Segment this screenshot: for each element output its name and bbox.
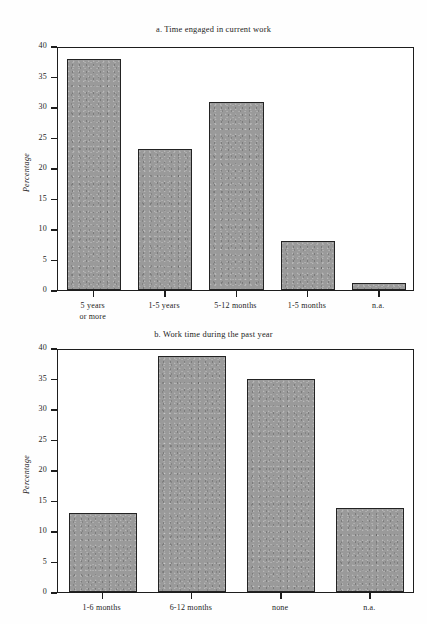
chart-b-xtick-label: 6-12 months: [146, 602, 235, 613]
chart-a-plot-area: [57, 47, 414, 291]
chart-b-ytick-label: 30: [39, 404, 47, 413]
chart-b-ytick-mark: [51, 379, 57, 381]
chart-a-xtick-mark: [93, 291, 95, 297]
chart-a-ytick-label: 30: [39, 102, 47, 111]
chart-b-ytick-label: 20: [39, 465, 47, 474]
chart-a-xtick-label: 5-12 months: [200, 300, 271, 311]
chart-b-ytick-label: 40: [39, 343, 47, 352]
chart-b-ytick-label: 35: [39, 374, 47, 383]
chart-b-ytick-label: 0: [43, 587, 47, 596]
chart-b: b. Work time during the past year Percen…: [0, 312, 427, 624]
chart-b-xtick-label: 1-6 months: [57, 602, 146, 613]
chart-a-title: a. Time engaged in current work: [0, 25, 427, 34]
chart-b-ytick-mark: [51, 440, 57, 442]
chart-b-ytick-mark: [51, 348, 57, 350]
chart-b-xtick-label: n.a.: [325, 602, 414, 613]
chart-a-bar: [138, 149, 192, 290]
chart-b-bar: [336, 508, 404, 592]
chart-b-ytick-mark: [51, 531, 57, 533]
chart-a-xtick-mark: [307, 291, 309, 297]
chart-b-ytick-mark: [51, 562, 57, 564]
chart-a-xtick-label: 1-5 years: [128, 300, 199, 311]
chart-a-ytick-mark: [51, 77, 57, 79]
chart-a-ytick-label: 35: [39, 72, 47, 81]
chart-a-ytick-mark: [51, 138, 57, 140]
chart-b-bar: [158, 356, 226, 592]
chart-a-xtick-label: n.a.: [343, 300, 414, 311]
chart-b-ytick-mark: [51, 470, 57, 472]
chart-b-y-axis-label: Percentage: [22, 445, 31, 505]
chart-a-ytick-label: 20: [39, 163, 47, 172]
chart-a-xtick-label: 1-5 months: [271, 300, 342, 311]
chart-b-xtick-mark: [102, 593, 104, 599]
chart-b-xtick-label: none: [236, 602, 325, 613]
chart-b-ytick-mark: [51, 592, 57, 594]
chart-a-ytick-mark: [51, 260, 57, 262]
chart-a-ytick-mark: [51, 199, 57, 201]
chart-a: a. Time engaged in current work Percenta…: [0, 0, 427, 312]
chart-b-ytick-mark: [51, 409, 57, 411]
chart-a-bar: [281, 241, 335, 290]
chart-b-bar: [247, 379, 315, 593]
chart-a-bar: [352, 283, 406, 290]
chart-b-xtick-mark: [280, 593, 282, 599]
chart-a-ytick-label: 5: [43, 255, 47, 264]
chart-b-ytick-label: 5: [43, 557, 47, 566]
chart-b-title: b. Work time during the past year: [0, 330, 427, 339]
chart-a-ytick-mark: [51, 46, 57, 48]
chart-a-ytick-label: 25: [39, 133, 47, 142]
chart-a-ytick-label: 0: [43, 285, 47, 294]
chart-a-ytick-label: 15: [39, 194, 47, 203]
chart-b-bars: [58, 350, 413, 592]
chart-a-ytick-mark: [51, 290, 57, 292]
chart-a-ytick-mark: [51, 229, 57, 231]
chart-b-ytick-label: 25: [39, 435, 47, 444]
chart-a-ytick-mark: [51, 107, 57, 109]
chart-b-xtick-mark: [369, 593, 371, 599]
chart-a-xtick-mark: [378, 291, 380, 297]
chart-a-bars: [58, 48, 413, 290]
chart-a-y-axis-label: Percentage: [22, 143, 31, 203]
chart-b-ytick-mark: [51, 501, 57, 503]
figure-page: a. Time engaged in current work Percenta…: [0, 0, 427, 624]
chart-a-xtick-mark: [164, 291, 166, 297]
chart-a-bar: [67, 59, 121, 290]
chart-a-ytick-label: 40: [39, 41, 47, 50]
chart-b-ytick-label: 10: [39, 526, 47, 535]
chart-b-xtick-mark: [191, 593, 193, 599]
chart-b-plot-area: [57, 349, 414, 593]
chart-b-bar: [69, 513, 137, 592]
chart-a-ytick-label: 10: [39, 224, 47, 233]
chart-a-ytick-mark: [51, 168, 57, 170]
chart-a-xtick-mark: [236, 291, 238, 297]
chart-b-ytick-label: 15: [39, 496, 47, 505]
chart-a-bar: [209, 102, 263, 290]
